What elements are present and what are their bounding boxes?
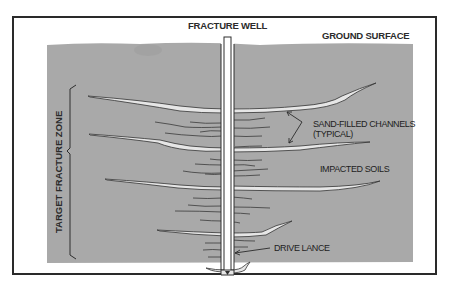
drive-lance-label: DRIVE LANCE bbox=[274, 243, 330, 253]
ground-surface-label: GROUND SURFACE bbox=[322, 30, 409, 41]
impacted-soils-label: IMPACTED SOILS bbox=[320, 164, 389, 174]
typical-label: (TYPICAL) bbox=[313, 129, 353, 139]
sand-filled-channels-label: SAND-FILLED CHANNELS bbox=[313, 119, 415, 129]
fracture-well bbox=[221, 37, 234, 275]
cross-section-diagram bbox=[0, 0, 458, 297]
target-fracture-zone-label: TARGET FRACTURE ZONE bbox=[53, 111, 64, 233]
fracture-well-label: FRACTURE WELL bbox=[188, 20, 267, 31]
